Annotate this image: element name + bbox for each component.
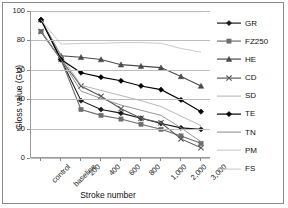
x-tick-mark xyxy=(100,158,101,161)
plot-area xyxy=(30,11,210,158)
legend-item-gr[interactable]: GR xyxy=(216,14,282,32)
data-point xyxy=(99,113,103,117)
legend-item-fz250[interactable]: FZ250 xyxy=(216,32,282,50)
data-point xyxy=(198,109,203,114)
legend-swatch-icon xyxy=(216,32,242,50)
gridline xyxy=(31,40,210,41)
y-tick-label: 0 xyxy=(3,154,25,162)
gridline xyxy=(31,11,210,12)
legend-item-tn[interactable]: TN xyxy=(216,123,282,141)
legend-item-fs[interactable]: FS xyxy=(216,160,282,178)
data-point xyxy=(139,122,143,126)
legend-label: FZ250 xyxy=(245,37,268,46)
y-tick-mark xyxy=(27,158,30,159)
legend-item-sd[interactable]: SD xyxy=(216,87,282,105)
legend-swatch-icon xyxy=(216,123,242,141)
series-line xyxy=(41,20,201,126)
series-line xyxy=(41,32,201,148)
legend-label: TE xyxy=(245,109,255,118)
gridline xyxy=(31,99,210,100)
legend-label: CD xyxy=(245,73,257,82)
data-point xyxy=(138,83,143,88)
legend-item-cd[interactable]: CD xyxy=(216,69,282,87)
series-he xyxy=(38,17,203,88)
y-tick-label: 60 xyxy=(3,66,25,74)
x-axis-title: Stroke number xyxy=(0,190,216,200)
legend-swatch-icon xyxy=(216,105,242,123)
legend-swatch-icon xyxy=(216,87,242,105)
legend-item-he[interactable]: HE xyxy=(216,50,282,68)
x-tick-mark xyxy=(160,158,161,161)
y-tick-label: 20 xyxy=(3,125,25,133)
legend-swatch-icon xyxy=(216,50,242,68)
x-tick-mark xyxy=(80,158,81,161)
data-point xyxy=(198,145,203,150)
x-tick-mark xyxy=(180,158,181,161)
data-point xyxy=(118,78,123,83)
data-point xyxy=(198,83,203,88)
x-tick-mark xyxy=(40,158,41,161)
data-point xyxy=(119,117,123,121)
legend-label: SD xyxy=(245,91,256,100)
legend-label: HE xyxy=(245,55,256,64)
data-point xyxy=(79,107,83,111)
legend-item-pm[interactable]: PM xyxy=(216,141,282,159)
chart-legend: GRFZ250HECDSDTETNPMFS xyxy=(216,14,282,178)
series-cd xyxy=(38,29,203,150)
x-tick-mark xyxy=(200,158,201,161)
y-tick-label: 80 xyxy=(3,36,25,44)
y-tick-label: 100 xyxy=(3,7,25,15)
data-point xyxy=(98,107,103,112)
series-line xyxy=(41,32,201,142)
legend-label: FS xyxy=(245,164,255,173)
legend-item-te[interactable]: TE xyxy=(216,105,282,123)
legend-label: GR xyxy=(245,19,257,28)
gridline xyxy=(31,70,210,71)
legend-swatch-icon xyxy=(216,69,242,87)
legend-swatch-icon xyxy=(216,141,242,159)
legend-label: PM xyxy=(245,146,257,155)
data-point xyxy=(98,75,103,80)
data-point xyxy=(178,74,183,79)
chart-figure: Gloss value (GU) 100806040200 controlbas… xyxy=(0,0,288,208)
data-point xyxy=(158,87,163,92)
series-layer xyxy=(31,11,211,158)
legend-swatch-icon xyxy=(216,14,242,32)
series-line xyxy=(41,20,201,86)
y-tick-label: 40 xyxy=(3,95,25,103)
x-tick-mark xyxy=(140,158,141,161)
x-tick-mark xyxy=(60,158,61,161)
legend-label: TN xyxy=(245,128,256,137)
x-tick-mark xyxy=(120,158,121,161)
series-line xyxy=(41,20,201,52)
series-pm xyxy=(41,20,201,52)
series-sd xyxy=(41,20,201,126)
series-tn xyxy=(41,32,201,142)
legend-swatch-icon xyxy=(216,160,242,178)
gridline xyxy=(31,129,210,130)
